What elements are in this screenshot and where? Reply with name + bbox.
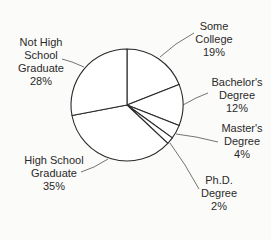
leader-line: [176, 134, 218, 142]
label-some-college: Some College 19%: [192, 20, 236, 59]
label-bachelors-degree: Bachelor's Degree 12%: [207, 76, 267, 115]
pie-slices: [71, 49, 183, 161]
leader-line: [183, 93, 208, 105]
label-not-high-school-graduate: Not High School Graduate 28%: [16, 36, 66, 88]
label-masters-degree: Master's Degree 4%: [216, 122, 268, 161]
leader-line: [170, 143, 199, 189]
label-high-school-graduate: High School Graduate 35%: [22, 154, 86, 193]
leader-line: [160, 33, 194, 57]
slice-not-high-school-graduate: [71, 49, 127, 115]
label-phd-degree: Ph.D. Degree 2%: [196, 174, 242, 213]
